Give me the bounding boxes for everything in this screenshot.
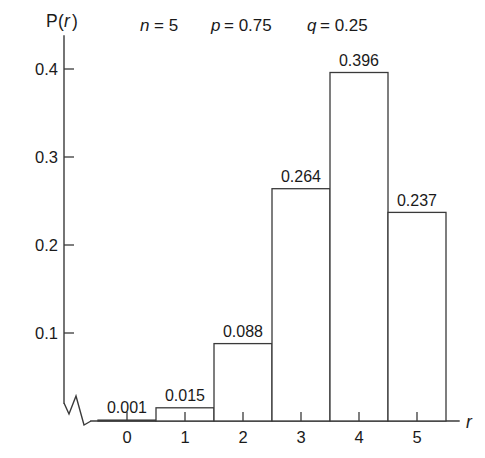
bar-r-2 — [214, 344, 272, 421]
bar-series — [98, 73, 446, 422]
y-axis-title-arg: r — [64, 11, 71, 31]
y-axis-ticks: 0.1 0.2 0.3 0.4 — [35, 60, 74, 342]
y-axis-title: P ( r ) — [46, 11, 78, 31]
x-axis-title: r — [466, 412, 473, 432]
y-tick-label-0.3: 0.3 — [35, 148, 58, 166]
bar-r-4 — [330, 73, 388, 422]
title-var-q: q — [307, 16, 317, 35]
axis-break-zigzag — [64, 396, 91, 425]
bar-value-label-r-5: 0.237 — [397, 192, 437, 209]
x-tick-label-3: 3 — [296, 428, 305, 446]
chart-canvas: n = 5 p = 0.75 q = 0.25 P ( r ) 0.1 0 — [0, 0, 485, 458]
x-tick-label-2: 2 — [238, 428, 247, 446]
title-eq-p: = 0.75 — [224, 16, 272, 35]
x-tick-label-0: 0 — [122, 428, 131, 446]
bar-value-label-r-4: 0.396 — [339, 52, 379, 69]
y-tick-label-0.4: 0.4 — [35, 60, 58, 78]
binomial-distribution-chart: n = 5 p = 0.75 q = 0.25 P ( r ) 0.1 0 — [0, 0, 485, 458]
bar-value-label-r-2: 0.088 — [223, 323, 263, 340]
x-tick-label-4: 4 — [354, 428, 363, 446]
bar-value-label-r-1: 0.015 — [165, 387, 205, 404]
bar-value-label-r-3: 0.264 — [281, 168, 321, 185]
x-tick-label-1: 1 — [180, 428, 189, 446]
title-var-n: n — [140, 16, 149, 35]
y-axis-title-close-paren: ) — [72, 11, 78, 31]
y-axis-title-func: P — [46, 11, 58, 31]
y-tick-label-0.2: 0.2 — [35, 236, 58, 254]
chart-title: n = 5 p = 0.75 q = 0.25 — [140, 16, 368, 35]
title-eq-q: = 0.25 — [320, 16, 368, 35]
title-var-p: p — [210, 16, 220, 35]
title-eq-n: = 5 — [154, 16, 178, 35]
y-tick-label-0.1: 0.1 — [35, 324, 58, 342]
x-tick-label-5: 5 — [412, 428, 421, 446]
bar-r-5 — [388, 212, 446, 421]
bar-r-3 — [272, 189, 330, 421]
